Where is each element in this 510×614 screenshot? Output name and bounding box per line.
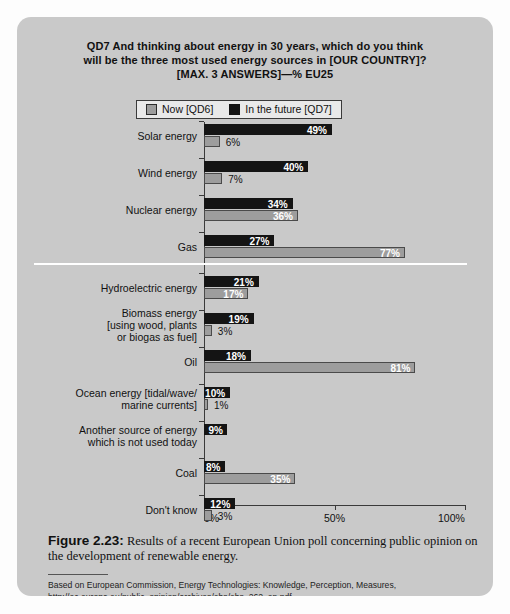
category-label: Ocean energy [tidal/wave/marine currents… <box>47 387 197 411</box>
legend-swatch-future-icon <box>229 104 240 115</box>
bar-value-label: 18% <box>226 351 246 362</box>
bar-now <box>204 136 220 147</box>
category-label-line: Another source of energy <box>47 424 197 436</box>
x-axis-tick-label: 100% <box>438 512 465 524</box>
y-axis-tick <box>199 458 204 459</box>
category-label: Don't know <box>47 504 197 516</box>
bar-now <box>204 173 222 184</box>
category-label: Coal <box>47 467 197 479</box>
y-axis-tick <box>199 310 204 311</box>
category-label: Biomass energy[using wood, plantsor biog… <box>47 307 197 343</box>
bar-value-label: 19% <box>229 314 249 325</box>
chart-title-line-2: will be the three most used energy sourc… <box>47 53 463 67</box>
bar-value-label: 34% <box>268 199 288 210</box>
group-divider-line <box>34 263 467 265</box>
category-label-line: or biogas as fuel] <box>47 331 197 343</box>
bar-value-label: 3% <box>218 511 232 522</box>
category-label-line: Don't know <box>47 504 197 516</box>
bar-value-label: 27% <box>249 236 269 247</box>
category-label-line: marine currents] <box>47 399 197 411</box>
y-axis-tick <box>199 121 204 122</box>
bar-value-label: 10% <box>205 388 225 399</box>
category-label-line: which is not used today <box>47 436 197 448</box>
bar-value-label: 49% <box>307 125 327 136</box>
bar-value-label: 36% <box>273 211 293 222</box>
category-label: Another source of energywhich is not use… <box>47 424 197 448</box>
y-axis-tick <box>199 158 204 159</box>
figure-page: QD7 And thinking about energy in 30 year… <box>0 0 510 614</box>
y-axis-tick <box>199 421 204 422</box>
category-label-line: Solar energy <box>47 130 197 142</box>
bar-value-label: 7% <box>228 174 242 185</box>
legend-item-now: Now [QD6] <box>146 103 213 115</box>
y-axis-tick <box>199 195 204 196</box>
bar-value-label: 17% <box>223 289 243 300</box>
category-label-line: Coal <box>47 467 197 479</box>
x-axis-tick <box>465 505 466 510</box>
category-label-line: Nuclear energy <box>47 204 197 216</box>
chart-legend: Now [QD6] In the future [QD7] <box>136 100 342 119</box>
bar-now <box>204 247 405 258</box>
bar-now <box>204 399 208 410</box>
category-label: Oil <box>47 356 197 368</box>
category-label: Hydroelectric energy <box>47 282 197 294</box>
y-axis-tick <box>199 273 204 274</box>
y-axis-tick <box>199 384 204 385</box>
source-rule <box>48 574 108 575</box>
bar-value-label: 8% <box>206 462 220 473</box>
y-axis-tick <box>199 495 204 496</box>
chart-title-line-1: QD7 And thinking about energy in 30 year… <box>47 39 463 53</box>
bar-value-label: 12% <box>210 499 230 510</box>
bar-value-label: 40% <box>283 162 303 173</box>
legend-label-now: Now [QD6] <box>162 103 213 115</box>
category-label-line: Hydroelectric energy <box>47 282 197 294</box>
category-label-line: [using wood, plants <box>47 319 197 331</box>
category-label-line: Ocean energy [tidal/wave/ <box>47 387 197 399</box>
category-label: Wind energy <box>47 167 197 179</box>
legend-label-future: In the future [QD7] <box>245 103 331 115</box>
bar-value-label: 21% <box>234 277 254 288</box>
y-axis-tick <box>199 347 204 348</box>
figure-caption-label: Figure 2.23: <box>48 533 124 548</box>
category-label: Gas <box>47 241 197 253</box>
x-axis-tick-label: 50% <box>324 512 345 524</box>
chart-title: QD7 And thinking about energy in 30 year… <box>47 39 463 81</box>
bar-value-label: 6% <box>226 137 240 148</box>
bar-now <box>204 362 415 373</box>
category-label-line: Wind energy <box>47 167 197 179</box>
legend-swatch-now-icon <box>146 104 157 115</box>
figure-source: Based on European Commission, Energy Tec… <box>48 580 488 596</box>
figure-panel: QD7 And thinking about energy in 30 year… <box>17 17 493 596</box>
category-label-line: Biomass energy <box>47 307 197 319</box>
legend-item-future: In the future [QD7] <box>229 103 331 115</box>
category-label-line: Gas <box>47 241 197 253</box>
figure-caption: Figure 2.23: Results of a recent Europea… <box>48 533 488 564</box>
bar-value-label: 81% <box>390 363 410 374</box>
bar-value-label: 3% <box>218 326 232 337</box>
bar-value-label: 9% <box>208 425 222 436</box>
x-axis-tick <box>335 505 336 510</box>
y-axis-tick <box>199 232 204 233</box>
category-label: Solar energy <box>47 130 197 142</box>
bar-now <box>204 325 212 336</box>
bar-value-label: 1% <box>214 400 228 411</box>
category-label-line: Oil <box>47 356 197 368</box>
chart-title-line-3: [MAX. 3 ANSWERS]—% EU25 <box>47 67 463 81</box>
category-label: Nuclear energy <box>47 204 197 216</box>
bar-value-label: 77% <box>380 248 400 259</box>
bar-value-label: 35% <box>270 474 290 485</box>
bar-chart-plot: 0%50%100%Solar energy49%6%Wind energy40%… <box>47 122 467 522</box>
bar-now <box>204 510 212 521</box>
